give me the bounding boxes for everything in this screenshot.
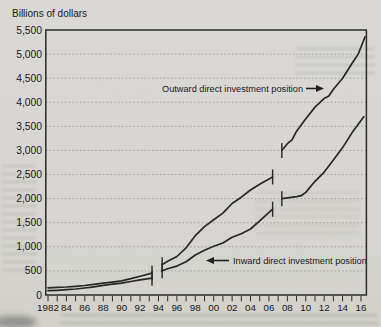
scanned-chart-page: 198284868890929496980002040608101214165,… [0, 0, 381, 327]
investment-position-chart: 198284868890929496980002040608101214165,… [0, 0, 381, 327]
scan-noise-overlay [0, 0, 381, 327]
